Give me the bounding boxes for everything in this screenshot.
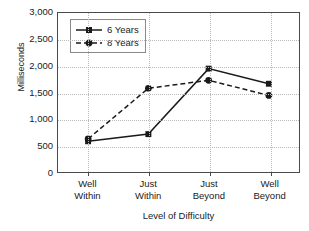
x-tick-mark <box>149 172 150 176</box>
legend-label: 6 Years <box>107 24 139 35</box>
data-point-marker-circle <box>205 77 212 84</box>
x-tick-label-line: Beyond <box>174 190 244 202</box>
x-tick-label-line: Just <box>113 178 183 190</box>
x-axis-title: Level of Difficulty <box>57 210 300 221</box>
y-tick-label: 3,000 <box>7 7 53 17</box>
x-tick-mark <box>271 172 272 176</box>
gridline-vertical <box>149 13 150 172</box>
y-tick-label: 1,500 <box>7 88 53 98</box>
x-tick-mark <box>88 172 89 176</box>
gridline-vertical <box>271 13 272 172</box>
x-axis-tick-labels: WellWithinJustWithinJustBeyondWellBeyond <box>57 178 300 208</box>
x-tick-mark <box>210 172 211 176</box>
y-tick-label: 1,000 <box>7 114 53 124</box>
x-tick-label: WellBeyond <box>235 178 305 201</box>
legend-item-2: 8 Years <box>75 36 139 49</box>
plot-area: 6 Years8 Years <box>57 12 300 173</box>
series-line-2 <box>88 80 269 139</box>
gridline-horizontal <box>58 147 299 148</box>
x-tick-label-line: Within <box>52 190 122 202</box>
gridline-vertical <box>210 13 211 172</box>
y-tick-label: 2,500 <box>7 34 53 44</box>
gridline-horizontal <box>58 40 299 41</box>
x-tick-label-line: Just <box>174 178 244 190</box>
x-tick-label-line: Well <box>52 178 122 190</box>
y-tick-label: 500 <box>7 141 53 151</box>
y-tick-label: 2,000 <box>7 61 53 71</box>
gridline-horizontal <box>58 94 299 95</box>
y-axis-tick-labels: 05001,0001,5002,0002,5003,000 <box>3 0 53 231</box>
x-tick-label: JustBeyond <box>174 178 244 201</box>
series-line-1 <box>88 69 269 142</box>
gridline-horizontal <box>58 120 299 121</box>
y-tick-label: 0 <box>7 168 53 178</box>
chart-figure: Milliseconds 05001,0001,5002,0002,5003,0… <box>0 0 309 231</box>
x-tick-label: JustWithin <box>113 178 183 201</box>
x-tick-label-line: Within <box>113 190 183 202</box>
gridline-vertical <box>88 13 89 172</box>
gridline-horizontal <box>58 67 299 68</box>
x-tick-label: WellWithin <box>52 178 122 201</box>
x-tick-label-line: Beyond <box>235 190 305 202</box>
legend-label: 8 Years <box>107 37 139 48</box>
x-tick-label-line: Well <box>235 178 305 190</box>
chart-legend: 6 Years8 Years <box>70 19 146 53</box>
legend-item-1: 6 Years <box>75 23 139 36</box>
